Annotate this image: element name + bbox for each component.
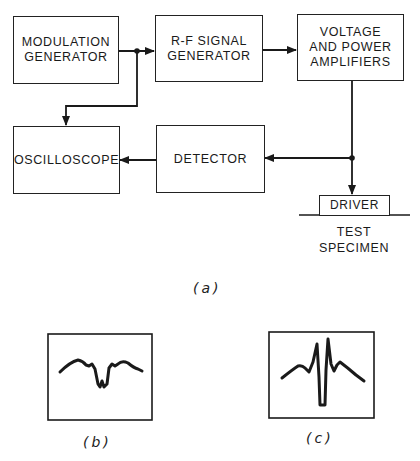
block-label: DETECTOR [174, 152, 247, 167]
block-driver: DRIVER [319, 195, 390, 216]
block-label: GENERATOR [22, 50, 110, 65]
block-oscilloscope: OSCILLOSCOPE [13, 126, 120, 194]
block-label: MODULATION [22, 35, 110, 50]
junction-dot [349, 155, 355, 161]
block-label: DRIVER [330, 198, 379, 213]
waveform-b [60, 360, 142, 387]
junction-dot [134, 48, 140, 54]
block-detector: DETECTOR [156, 125, 265, 193]
block-voltage-power-amplifiers: VOLTAGE AND POWER AMPLIFIERS [297, 14, 404, 81]
oscilloscope-screen-b [48, 334, 152, 420]
caption-a: (a) [193, 280, 222, 296]
test-specimen-line2: SPECIMEN [312, 240, 396, 256]
test-specimen-label: TEST SPECIMEN [312, 224, 396, 256]
block-label: VOLTAGE [309, 25, 392, 40]
test-specimen-line1: TEST [312, 224, 396, 240]
block-modulation-generator: MODULATION GENERATOR [13, 16, 119, 84]
block-label: GENERATOR [167, 49, 250, 64]
caption-c: (c) [306, 430, 334, 446]
block-label: OSCILLOSCOPE [14, 153, 119, 168]
caption-b: (b) [83, 434, 112, 450]
block-label: AMPLIFIERS [309, 55, 392, 70]
block-rf-signal-generator: R-F SIGNAL GENERATOR [155, 15, 263, 82]
block-label: AND POWER [309, 40, 392, 55]
waveform-c [282, 339, 364, 405]
block-label: R-F SIGNAL [167, 34, 250, 49]
